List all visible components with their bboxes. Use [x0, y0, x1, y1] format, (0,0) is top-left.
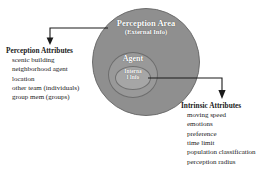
- agent-label: Agent: [108, 55, 158, 63]
- perception-area-label: Perception Area (External Info): [92, 19, 200, 36]
- list-item: population classification: [187, 148, 256, 157]
- perception-area-subtitle: (External Info): [92, 29, 200, 36]
- perception-attributes-title: Perception Attributes: [6, 46, 79, 55]
- intrinsic-attributes-list: moving speed emotions preference time li…: [181, 111, 256, 167]
- internal-info-label: Interna l Info: [115, 68, 151, 80]
- intrinsic-attributes-title: Intrinsic Attributes: [181, 101, 256, 110]
- list-item: scenic building: [12, 56, 79, 65]
- connector-right-path: [148, 78, 222, 91]
- list-item: location: [12, 75, 79, 84]
- internal-info-line-2: l Info: [127, 74, 139, 80]
- diagram-canvas: Perception Area (External Info) Agent In…: [0, 0, 266, 179]
- intrinsic-attributes-block: Intrinsic Attributes moving speed emotio…: [181, 101, 256, 167]
- perception-attributes-block: Perception Attributes scenic building ne…: [6, 46, 79, 103]
- list-item: preference: [187, 130, 256, 139]
- list-item: neighborhood agent: [12, 65, 79, 74]
- list-item: perception radius: [187, 158, 256, 167]
- list-item: time limit: [187, 139, 256, 148]
- perception-area-title: Perception Area: [117, 18, 175, 28]
- list-item: emotions: [187, 120, 256, 129]
- list-item: other team (individuals): [12, 84, 79, 93]
- arrowhead-right: [218, 90, 225, 99]
- list-item: moving speed: [187, 111, 256, 120]
- perception-attributes-list: scenic building neighborhood agent locat…: [6, 56, 79, 102]
- list-item: group mem (groups): [12, 93, 79, 102]
